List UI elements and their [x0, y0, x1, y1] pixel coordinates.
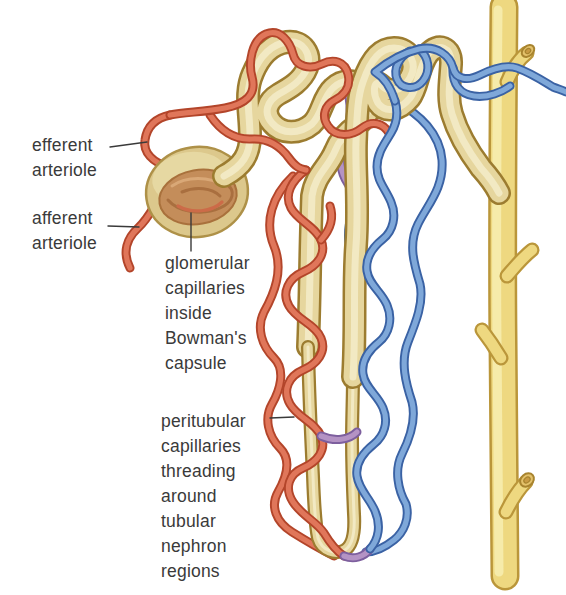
- label-glomerular-capillaries: glomerular capillaries inside Bowman's c…: [165, 251, 250, 376]
- label-line: arteriole: [32, 231, 97, 256]
- label-line: tubular: [161, 509, 246, 534]
- label-line: peritubular: [161, 409, 246, 434]
- label-line: nephron: [161, 534, 246, 559]
- nephron-blood-supply-figure: efferent arteriole afferent arteriole gl…: [0, 0, 566, 595]
- label-line: threading: [161, 459, 246, 484]
- label-line: capillaries: [165, 276, 250, 301]
- label-line: around: [161, 484, 246, 509]
- label-line: afferent: [32, 206, 97, 231]
- label-line: regions: [161, 559, 246, 584]
- label-efferent-arteriole: efferent arteriole: [32, 133, 97, 183]
- label-afferent-arteriole: afferent arteriole: [32, 206, 97, 256]
- leader-line-peritubular: [270, 417, 294, 418]
- label-line: inside: [165, 301, 250, 326]
- label-line: glomerular: [165, 251, 250, 276]
- label-line: efferent: [32, 133, 97, 158]
- label-line: capillaries: [161, 434, 246, 459]
- label-peritubular-capillaries: peritubular capillaries threading around…: [161, 409, 246, 584]
- leader-line-afferent: [108, 226, 139, 227]
- label-line: Bowman's: [165, 326, 250, 351]
- nephron-diagram-art: [0, 0, 566, 595]
- label-line: arteriole: [32, 158, 97, 183]
- label-line: capsule: [165, 351, 250, 376]
